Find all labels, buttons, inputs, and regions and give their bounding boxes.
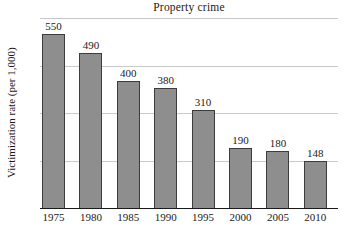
x-tick-label-2000: 2000 (222, 211, 260, 224)
bar-1975 (42, 34, 65, 208)
bar-chart-figure: Property crime Victimization rate (per 1… (0, 0, 361, 237)
x-tick-label-1990: 1990 (147, 211, 185, 224)
bar-2010 (304, 161, 327, 208)
y-axis-label: Victimization rate (per 1,000) (4, 18, 18, 208)
x-tick-label-1995: 1995 (184, 211, 222, 224)
bar-1995 (192, 110, 215, 208)
chart-title: Property crime (40, 1, 338, 13)
x-tick-label-1975: 1975 (35, 211, 73, 224)
bar-1980 (79, 53, 102, 208)
bar-value-label-1990: 380 (151, 74, 181, 87)
bar-2000 (229, 148, 252, 208)
bar-1985 (117, 81, 140, 208)
plot-area: 550490400380310190180148 (40, 18, 338, 209)
x-tick-label-1980: 1980 (72, 211, 110, 224)
bar-value-label-1980: 490 (76, 39, 106, 52)
x-tick-label-2010: 2010 (296, 211, 334, 224)
gridline-600 (40, 18, 338, 19)
bar-value-label-2005: 180 (263, 137, 293, 150)
bar-value-label-1995: 310 (188, 96, 218, 109)
bar-2005 (266, 151, 289, 208)
bar-value-label-2010: 148 (300, 147, 330, 160)
bar-1990 (154, 88, 177, 208)
x-tick-label-1985: 1985 (109, 211, 147, 224)
bar-value-label-2000: 190 (226, 134, 256, 147)
bar-value-label-1975: 550 (39, 20, 69, 33)
bar-value-label-1985: 400 (113, 67, 143, 80)
x-tick-label-2005: 2005 (259, 211, 297, 224)
